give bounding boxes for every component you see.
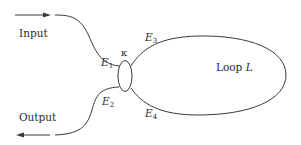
field-e3-subscript: 3 [153, 37, 157, 45]
ring-resonator-diagram: Input Output κ E1 E2 E3 E4 Loop L [0, 0, 301, 145]
field-e3-label: E3 [144, 31, 157, 45]
field-e2-subscript: 2 [110, 101, 114, 109]
field-e1-label: E1 [100, 56, 113, 70]
field-e2-base: E [101, 95, 110, 107]
loop-label: Loop L [216, 61, 253, 73]
field-e1-subscript: 1 [109, 62, 113, 70]
input-waveguide [55, 15, 119, 66]
field-e4-base: E [144, 107, 153, 119]
field-e3-base: E [144, 31, 153, 43]
loop-label-text: Loop [216, 61, 246, 73]
input-label: Input [19, 27, 48, 39]
loop-ring [131, 36, 286, 115]
input-arrow [15, 13, 51, 18]
coupling-coefficient-label: κ [121, 47, 128, 58]
field-e1-base: E [100, 56, 109, 68]
arrowhead-left-icon [16, 133, 24, 138]
coupler-ellipse [118, 61, 132, 92]
field-e4-subscript: 4 [153, 113, 158, 121]
field-e4-label: E4 [144, 107, 158, 121]
arrowhead-right-icon [43, 13, 51, 18]
field-e2-label: E2 [101, 95, 114, 109]
output-label: Output [19, 111, 57, 123]
loop-label-variable: L [245, 61, 253, 73]
output-arrow [16, 133, 50, 138]
